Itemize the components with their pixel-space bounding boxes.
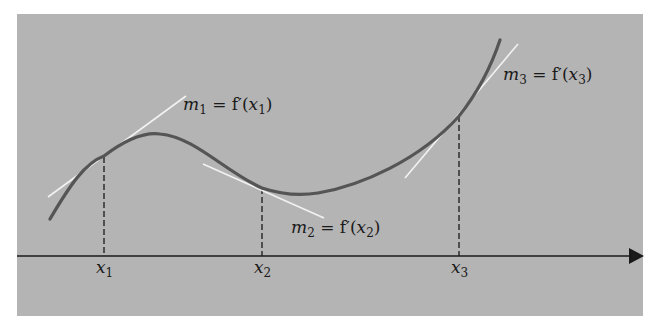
tangent-line-2 [203, 164, 324, 218]
derivative-tangent-diagram: m1 = f′(x1) m2 = f′(x2) m3 = f′(x3) x1 x… [0, 0, 657, 329]
function-curve [50, 40, 500, 219]
point-label-x3: x3 [451, 257, 468, 280]
tangent-label-1: m1 = f′(x1) [183, 94, 272, 117]
point-label-x1: x1 [96, 257, 113, 280]
tangent-label-3: m3 = f′(x3) [503, 64, 592, 87]
x-axis-arrow-icon [629, 248, 644, 264]
point-label-x2: x2 [254, 257, 271, 280]
tangent-label-2: m2 = f′(x2) [291, 217, 380, 240]
